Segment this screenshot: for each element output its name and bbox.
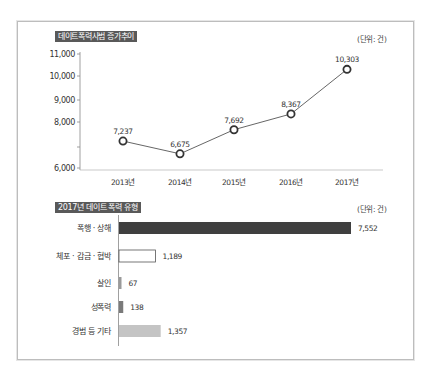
bar-category-label: 경범 등 기타: [72, 326, 112, 336]
bar-value-label: 1,357: [168, 327, 188, 336]
bar: [119, 325, 161, 337]
bar-value-label: 138: [130, 303, 144, 312]
bar: [119, 250, 156, 262]
bar: [119, 277, 122, 289]
bar: [119, 301, 123, 313]
bar-category-label: 체포 · 감금 · 협박: [56, 251, 112, 261]
bar-category-label: 살인: [97, 278, 111, 288]
bar: [119, 222, 351, 234]
bar-value-label: 67: [129, 279, 138, 288]
bar-category-label: 성폭력: [91, 302, 112, 312]
bar-chart: 폭행 · 상해7,552체포 · 감금 · 협박1,189살인67성폭력138경…: [0, 0, 431, 375]
bar-category-label: 폭행 · 상해: [77, 223, 111, 233]
bar-value-label: 1,189: [163, 252, 183, 261]
bar-value-label: 7,552: [358, 224, 378, 233]
